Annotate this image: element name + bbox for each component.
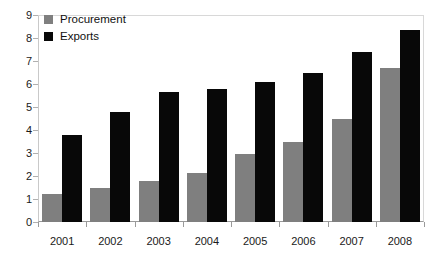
x-axis-tick-label: 2001 [38,236,86,247]
bar-exports-2005 [255,82,275,222]
x-axis-tick-label: 2003 [135,236,183,247]
legend-label-procurement: Procurement [60,14,126,26]
bar-procurement-2005 [235,154,255,222]
x-axis-tick-label: 2004 [183,236,231,247]
x-axis-tick-label: 2002 [86,236,134,247]
y-axis-tick-label: 9 [26,10,32,21]
bar-procurement-2001 [42,194,62,222]
x-axis-tick-label: 2006 [279,236,327,247]
x-axis-tick-mark [279,222,280,227]
exports-swatch-icon [44,32,53,41]
y-axis-tick-label: 3 [26,148,32,159]
bar-procurement-2006 [283,142,303,223]
bar-exports-2004 [207,89,227,222]
x-axis-tick-label: 2008 [376,236,424,247]
y-axis-tick-label: 2 [26,171,32,182]
bar-exports-2003 [159,92,179,222]
legend-item-procurement: Procurement [44,14,126,26]
y-axis-tick-label: 1 [26,194,32,205]
bar-exports-2006 [303,73,323,223]
x-axis-tick-mark [86,222,87,227]
chart-legend: Procurement Exports [44,14,126,42]
bar-exports-2002 [110,112,130,222]
bar-procurement-2004 [187,173,207,222]
bar-exports-2007 [352,52,372,222]
bar-exports-2001 [62,135,82,222]
x-axis-tick-mark [328,222,329,227]
x-axis-tick-mark [376,222,377,227]
legend-item-exports: Exports [44,31,126,43]
x-axis-tick-label: 2005 [231,236,279,247]
x-axis-tick-label: 2007 [328,236,376,247]
bar-exports-2008 [400,30,420,222]
y-axis-tick-label: 4 [26,125,32,136]
y-axis-tick-label: 6 [26,79,32,90]
bars-layer [38,15,424,222]
x-axis-tick-mark [424,222,425,227]
x-axis: 20012002200320042005200620072008 [38,222,424,264]
x-axis-tick-mark [183,222,184,227]
x-axis-tick-mark [135,222,136,227]
y-axis-tick-label: 7 [26,56,32,67]
bar-procurement-2007 [332,119,352,223]
bar-chart: 9876543210 20012002200320042005200620072… [0,0,437,264]
x-axis-tick-mark [38,222,39,227]
y-axis-tick-label: 0 [26,217,32,228]
procurement-swatch-icon [44,15,53,24]
bar-procurement-2008 [380,68,400,222]
legend-label-exports: Exports [60,31,99,43]
y-axis-tick-label: 8 [26,33,32,44]
bar-procurement-2002 [90,188,110,223]
y-axis: 9876543210 [0,0,38,237]
bar-procurement-2003 [139,181,159,222]
x-axis-tick-mark [231,222,232,227]
y-axis-tick-label: 5 [26,102,32,113]
